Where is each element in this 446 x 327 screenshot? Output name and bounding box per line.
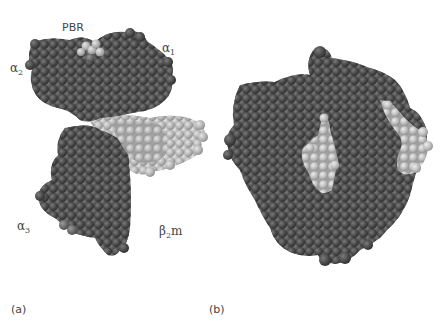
- pbr-label: PBR: [62, 22, 84, 33]
- alpha1-label: α1: [162, 42, 175, 57]
- panel-b-letter: (b): [209, 303, 225, 316]
- alpha1-alpha2-platform: [25, 28, 176, 122]
- b2m-label: β2m: [159, 225, 182, 240]
- alpha3-label: α3: [17, 220, 30, 235]
- panel-a-letter: (a): [11, 303, 26, 316]
- alpha3-label-base: α: [17, 219, 25, 233]
- alpha1-label-base: α: [162, 41, 170, 55]
- alpha1-label-sub: 1: [170, 48, 175, 57]
- b2m-label-suffix: m: [171, 224, 182, 238]
- alpha3-domain: [35, 125, 131, 255]
- mhc-top-view-model: [220, 0, 446, 327]
- mhc-side-view-model: [0, 0, 225, 327]
- alpha2-label-base: α: [10, 61, 18, 75]
- alpha3-label-sub: 3: [25, 226, 30, 235]
- panel-a-side-view: PBR α1 α2 α3 β2m (a): [0, 0, 225, 327]
- alpha2-label: α2: [10, 62, 23, 77]
- panel-b-top-view: (b): [220, 0, 446, 327]
- b2m-label-base: β: [159, 224, 166, 238]
- alpha2-label-sub: 2: [18, 68, 23, 77]
